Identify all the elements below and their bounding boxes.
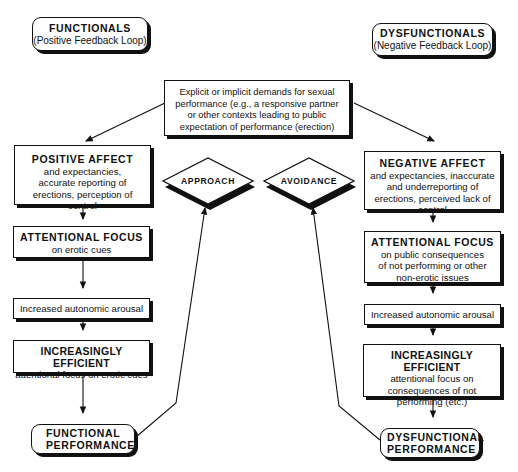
attentional-focus-consequences-box: ATTENTIONAL FOCUS on public consequences… bbox=[364, 231, 501, 283]
efficient-focus-consequences-box: INCREASINGLY EFFICIENT attentional focus… bbox=[363, 344, 501, 397]
arousal-box-left: Increased autonomic arousal bbox=[13, 298, 150, 319]
approach-label: APPROACH bbox=[168, 176, 248, 186]
demands-text: Explicit or implicit demands for sexual … bbox=[171, 87, 343, 133]
dysfunctionals-title: DYSFUNCTIONALS bbox=[373, 28, 492, 40]
arrow-demands-to-negative-affect bbox=[354, 103, 434, 141]
demands-box: Explicit or implicit demands for sexual … bbox=[164, 80, 350, 136]
efficient-focus-erotic-box: INCREASINGLY EFFICIENT attentional focus… bbox=[13, 340, 150, 373]
dysfunctionals-subtitle: (Negative Feedback Loop) bbox=[373, 40, 492, 52]
functionals-header: FUNCTIONALS (Positive Feedback Loop) bbox=[32, 17, 148, 51]
functionals-subtitle: (Positive Feedback Loop) bbox=[33, 35, 147, 47]
arousal-box-right: Increased autonomic arousal bbox=[364, 304, 501, 325]
avoidance-label: AVOIDANCE bbox=[269, 176, 349, 186]
attentional-focus-erotic-box: ATTENTIONAL FOCUS on erotic cues bbox=[13, 226, 150, 258]
arrow-demands-to-positive-affect bbox=[86, 103, 165, 141]
functionals-title: FUNCTIONALS bbox=[33, 23, 147, 35]
positive-affect-box: POSITIVE AFFECT and expectancies, accura… bbox=[14, 145, 151, 205]
functional-performance-box: FUNCTIONAL PERFORMANCE bbox=[31, 424, 135, 454]
negative-affect-box: NEGATIVE AFFECT and expectancies, inaccu… bbox=[364, 151, 501, 210]
dysfunctional-performance-box: DYSFUNCTIONAL PERFORMANCE bbox=[380, 428, 480, 458]
dysfunctionals-header: DYSFUNCTIONALS (Negative Feedback Loop) bbox=[372, 23, 493, 56]
